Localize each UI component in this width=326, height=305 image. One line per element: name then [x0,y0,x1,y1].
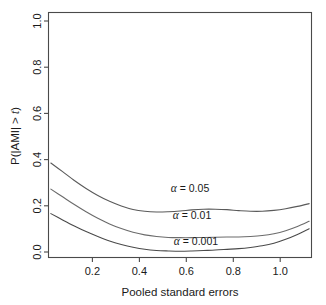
y-tick-label: 1.0 [31,13,43,28]
y-tick-label: 0.0 [31,244,43,259]
annotation-alpha-0-001: α = 0.001 [174,235,218,247]
y-tick-label: 0.8 [31,60,43,75]
y-tick-label: 0.6 [31,106,43,121]
x-tick-label: 0.8 [226,265,241,277]
x-tick-label: 0.4 [132,265,147,277]
y-tick-label: 0.2 [31,198,43,213]
y-axis-title: P(|AMI| > t) [9,107,21,165]
annotation-alpha-0-05: α = 0.05 [171,182,210,194]
y-axis-title-suffix: ) [9,107,21,111]
y-tick-label: 0.4 [31,152,43,167]
annotation-alpha-0-01: α = 0.01 [173,209,212,221]
y-axis-title-prefix: P(|AMI| > [9,114,21,165]
x-tick-label: 1.0 [273,265,288,277]
x-tick-label: 0.6 [179,265,194,277]
chart-container: 0.0 0.2 0.4 0.6 0.8 1.0 P(|AMI| > t) 0.2… [0,0,326,305]
x-axis-title: Pooled standard errors [122,286,239,298]
line-chart-plot: 0.0 0.2 0.4 0.6 0.8 1.0 P(|AMI| > t) 0.2… [0,0,326,305]
x-tick-label: 0.2 [85,265,100,277]
